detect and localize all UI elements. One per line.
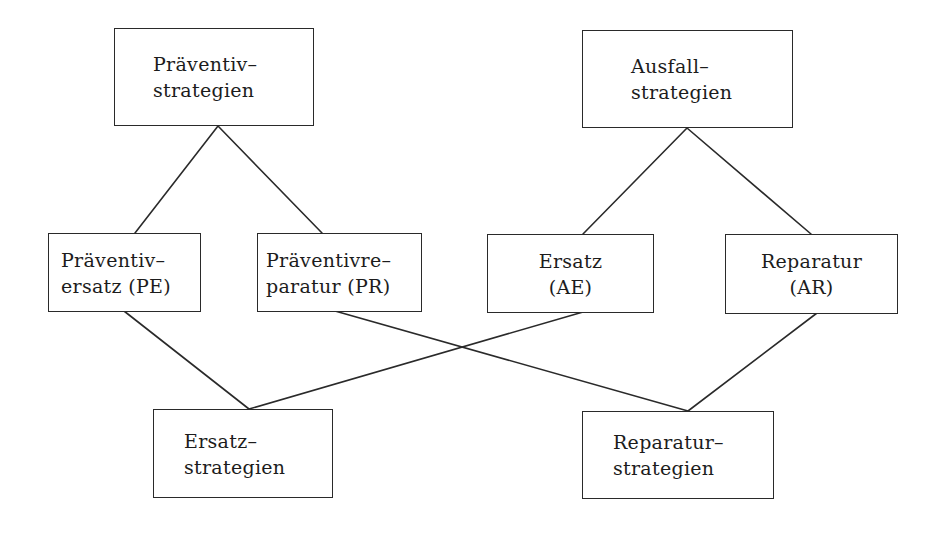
edge-ar-reparatur bbox=[688, 313, 817, 411]
node-label-line: Ersatz bbox=[539, 248, 602, 274]
node-label-line: Ausfall– bbox=[631, 53, 709, 79]
node-praeventiversatz-pe: Präventiv– ersatz (PE) bbox=[48, 233, 201, 312]
node-praeventivstrategien: Präventiv– strategien bbox=[114, 28, 314, 126]
node-label-line: Reparatur bbox=[761, 248, 862, 274]
node-label-line: strategien bbox=[613, 455, 714, 481]
node-ausfall-reparatur-ar: Reparatur (AR) bbox=[725, 234, 898, 314]
node-label-line: strategien bbox=[631, 79, 732, 105]
node-ausfall-ersatz-ae: Ersatz (AE) bbox=[487, 234, 654, 313]
edge-pr-reparatur bbox=[335, 311, 688, 411]
edge-ausfall-ar bbox=[687, 128, 811, 234]
node-label-line: (AR) bbox=[789, 274, 833, 300]
edge-praeventiv-pe bbox=[135, 126, 218, 233]
node-praeventivreparatur-pr: Präventivre– paratur (PR) bbox=[257, 233, 422, 312]
node-label-line: Reparatur– bbox=[613, 429, 724, 455]
node-label-line: Präventivre– bbox=[266, 247, 391, 273]
node-label-line: ersatz (PE) bbox=[61, 273, 171, 299]
edge-ausfall-ae bbox=[583, 128, 687, 234]
edge-pe-ersatz bbox=[124, 311, 249, 409]
node-label-line: paratur (PR) bbox=[266, 273, 390, 299]
node-ersatzstrategien: Ersatz– strategien bbox=[153, 409, 333, 498]
edge-ae-ersatz bbox=[249, 312, 583, 409]
node-label-line: strategien bbox=[184, 454, 285, 480]
node-label-line: Präventiv– bbox=[61, 247, 165, 273]
diagram-canvas: Präventiv– strategien Ausfall– strategie… bbox=[0, 0, 929, 534]
node-ausfallstrategien: Ausfall– strategien bbox=[582, 30, 793, 128]
node-label-line: Ersatz– bbox=[184, 428, 257, 454]
node-label-line: Präventiv– bbox=[153, 51, 257, 77]
node-label-line: strategien bbox=[153, 77, 254, 103]
node-reparaturstrategien: Reparatur– strategien bbox=[582, 411, 774, 499]
node-label-line: (AE) bbox=[549, 274, 593, 300]
edge-praeventiv-pr bbox=[218, 126, 322, 233]
